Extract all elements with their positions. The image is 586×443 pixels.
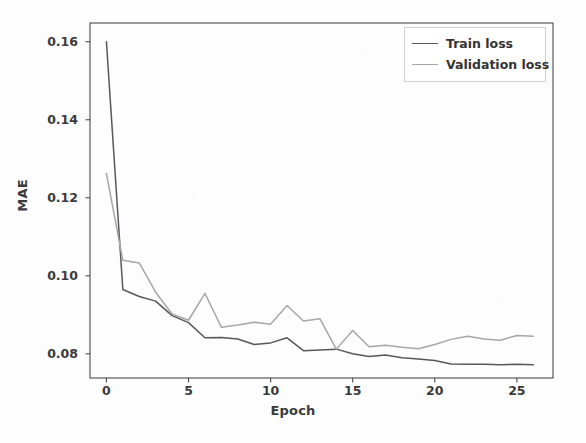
y-axis-ticklabels: 0.080.100.120.140.16 <box>34 0 78 443</box>
y-axis-label: MAE <box>15 166 30 226</box>
x-tick-label: 20 <box>415 383 455 398</box>
x-tick-label: 5 <box>169 383 209 398</box>
x-tick-label: 25 <box>497 383 537 398</box>
axis-ticks <box>86 42 517 383</box>
y-tick-label: 0.16 <box>34 34 78 49</box>
y-tick-label: 0.14 <box>34 112 78 127</box>
y-tick-label: 0.08 <box>34 346 78 361</box>
y-tick-label: 0.12 <box>34 190 78 205</box>
legend-label-train: Train loss <box>446 36 513 51</box>
legend-swatch-validation-icon <box>412 64 438 65</box>
figure-canvas: 0.080.100.120.140.16 0510152025 Epoch MA… <box>0 0 586 443</box>
series-line-validation <box>106 174 533 350</box>
x-axis-ticklabels: 0510152025 <box>0 383 586 405</box>
legend-item-train: Train loss <box>412 33 538 54</box>
series-line-train <box>106 42 533 365</box>
legend-swatch-train-icon <box>412 43 438 44</box>
x-axis-label: Epoch <box>0 403 586 418</box>
x-tick-label: 10 <box>251 383 291 398</box>
x-tick-label: 0 <box>86 383 126 398</box>
legend-label-validation: Validation loss <box>446 57 549 72</box>
x-tick-label: 15 <box>333 383 373 398</box>
data-series <box>106 42 533 365</box>
y-tick-label: 0.10 <box>34 268 78 283</box>
chart-legend: Train loss Validation loss <box>404 27 546 82</box>
legend-item-validation: Validation loss <box>412 54 538 75</box>
